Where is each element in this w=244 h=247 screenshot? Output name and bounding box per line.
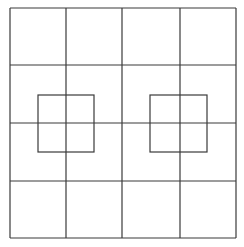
grid-diagram bbox=[0, 0, 244, 247]
